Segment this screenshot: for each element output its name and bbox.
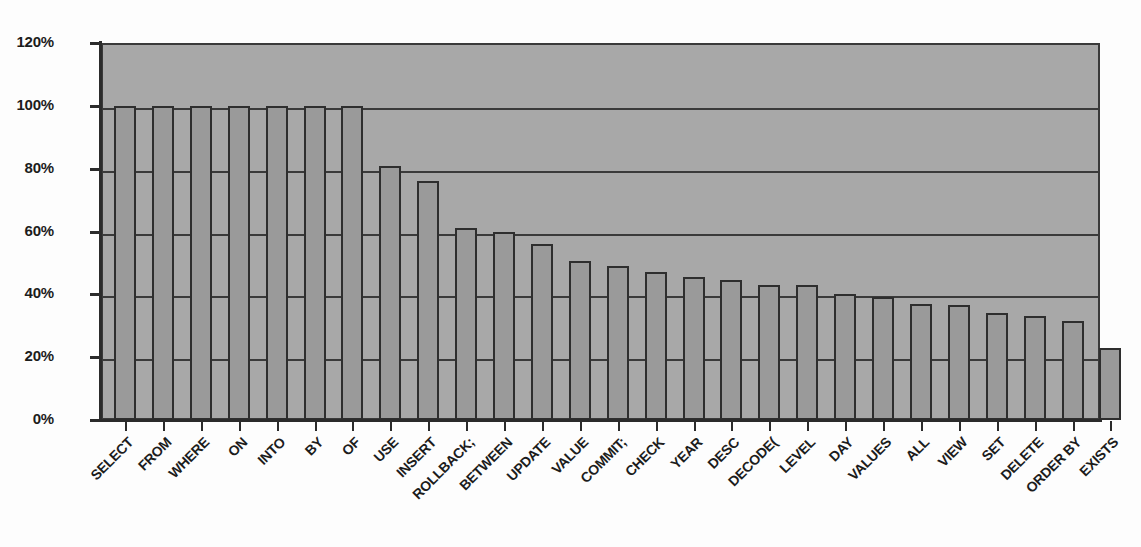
x-tick-mark bbox=[1110, 421, 1112, 431]
bar bbox=[796, 285, 818, 420]
y-tick-mark bbox=[90, 419, 101, 422]
x-tick-mark bbox=[201, 421, 203, 431]
bar bbox=[569, 261, 591, 420]
bar bbox=[228, 106, 250, 420]
bar bbox=[152, 106, 174, 420]
x-tick-mark bbox=[807, 421, 809, 431]
bar bbox=[1062, 321, 1084, 420]
x-axis-line bbox=[99, 419, 1102, 422]
y-tick-mark bbox=[90, 42, 101, 45]
y-tick-label: 120% bbox=[0, 33, 54, 50]
bar bbox=[1024, 316, 1046, 420]
x-tick-mark bbox=[731, 421, 733, 431]
bar bbox=[872, 297, 894, 420]
x-tick-mark bbox=[845, 421, 847, 431]
x-tick-mark bbox=[997, 421, 999, 431]
bar bbox=[455, 228, 477, 420]
bar bbox=[304, 106, 326, 420]
y-tick-mark bbox=[90, 231, 101, 234]
bar bbox=[720, 280, 742, 420]
x-tick-mark bbox=[390, 421, 392, 431]
bar bbox=[1099, 348, 1121, 420]
bar bbox=[948, 305, 970, 420]
bar bbox=[645, 272, 667, 420]
x-tick-mark bbox=[239, 421, 241, 431]
x-tick-mark bbox=[504, 421, 506, 431]
bar bbox=[683, 277, 705, 420]
y-tick-label: 40% bbox=[0, 284, 54, 301]
x-tick-mark bbox=[1073, 421, 1075, 431]
bar bbox=[190, 106, 212, 420]
x-tick-mark bbox=[694, 421, 696, 431]
x-tick-mark bbox=[277, 421, 279, 431]
bar bbox=[493, 232, 515, 421]
x-tick-mark bbox=[921, 421, 923, 431]
y-tick-label: 60% bbox=[0, 222, 54, 239]
bar bbox=[910, 304, 932, 420]
y-tick-label: 100% bbox=[0, 96, 54, 113]
bar bbox=[379, 166, 401, 420]
y-tick-label: 80% bbox=[0, 159, 54, 176]
y-tick-mark bbox=[90, 168, 101, 171]
x-tick-mark bbox=[883, 421, 885, 431]
x-tick-mark bbox=[315, 421, 317, 431]
y-tick-label: 0% bbox=[0, 410, 54, 427]
y-tick-mark bbox=[90, 356, 101, 359]
x-tick-mark bbox=[959, 421, 961, 431]
bar bbox=[266, 106, 288, 420]
y-tick-mark bbox=[90, 293, 101, 296]
x-tick-mark bbox=[580, 421, 582, 431]
x-tick-mark bbox=[163, 421, 165, 431]
bar bbox=[531, 244, 553, 420]
bar bbox=[341, 106, 363, 420]
x-tick-mark bbox=[352, 421, 354, 431]
bar bbox=[834, 294, 856, 420]
bar-chart: 120%100%80%60%40%20%0% SELECTFROMWHEREON… bbox=[0, 0, 1141, 547]
x-tick-mark bbox=[542, 421, 544, 431]
bar bbox=[114, 106, 136, 420]
x-tick-mark bbox=[769, 421, 771, 431]
bars-layer bbox=[101, 43, 1100, 420]
bar bbox=[417, 181, 439, 420]
x-tick-mark bbox=[1035, 421, 1037, 431]
y-tick-mark bbox=[90, 105, 101, 108]
y-tick-label: 20% bbox=[0, 347, 54, 364]
x-tick-mark bbox=[656, 421, 658, 431]
x-tick-mark bbox=[618, 421, 620, 431]
bar bbox=[607, 266, 629, 420]
x-tick-mark bbox=[466, 421, 468, 431]
bar bbox=[986, 313, 1008, 420]
x-tick-mark bbox=[428, 421, 430, 431]
bar bbox=[758, 285, 780, 420]
x-tick-mark bbox=[125, 421, 127, 431]
